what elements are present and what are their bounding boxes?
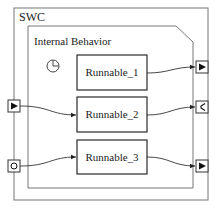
runnable-2-label: Runnable_2: [85, 108, 138, 120]
connector-runnable1-to-port: [147, 67, 195, 73]
left-port-client[interactable]: [8, 160, 20, 172]
runnable-1-label: Runnable_1: [85, 66, 138, 78]
internal-behavior-label: Internal Behavior: [34, 35, 112, 47]
right-port-server[interactable]: [196, 101, 208, 113]
connector-runnable2-to-port: [147, 107, 195, 115]
runnable-3-label: Runnable_3: [85, 151, 139, 163]
runnable-2[interactable]: Runnable_2: [77, 97, 147, 132]
runnable-3[interactable]: Runnable_3: [77, 140, 147, 174]
swc-label: SWC: [19, 10, 45, 24]
right-port-sender-3[interactable]: [196, 160, 208, 172]
left-port-receiver[interactable]: [8, 100, 20, 112]
clock-icon: [47, 60, 59, 72]
swc-diagram: SWC Internal Behavior Runnable_1 Runnabl…: [0, 0, 220, 208]
right-port-sender-1[interactable]: [196, 61, 208, 73]
runnable-1[interactable]: Runnable_1: [77, 55, 147, 90]
connector-runnable3-to-port: [147, 157, 195, 166]
